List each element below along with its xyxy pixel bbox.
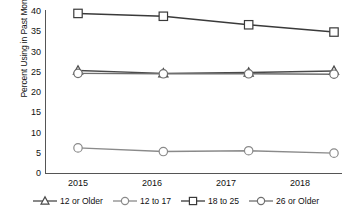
y-axis-tick-labels: 40 35 30 25 20 15 10 5 0 xyxy=(21,0,41,216)
data-point-marker xyxy=(330,28,338,36)
y-tick-label: 5 xyxy=(21,148,41,158)
legend-item[interactable]: 18 to 25 xyxy=(181,195,239,207)
y-tick-label: 30 xyxy=(21,47,41,57)
data-point-marker xyxy=(74,9,82,17)
data-point-marker xyxy=(74,69,82,77)
y-tick-label: 40 xyxy=(21,6,41,16)
legend-circle-icon xyxy=(249,195,273,207)
legend-triangle-icon xyxy=(33,195,57,207)
x-axis-line xyxy=(45,173,342,174)
series-layer xyxy=(46,11,342,173)
series-line xyxy=(78,148,334,153)
y-tick-label: 15 xyxy=(21,107,41,117)
data-point-marker xyxy=(330,149,338,157)
data-point-marker xyxy=(159,147,167,155)
x-tick-label: 2018 xyxy=(290,178,310,188)
legend-item[interactable]: 12 or Older xyxy=(33,195,103,207)
data-point-marker xyxy=(74,144,82,152)
y-tick-label: 20 xyxy=(21,87,41,97)
data-point-marker xyxy=(159,70,167,78)
data-point-marker xyxy=(159,12,167,20)
legend-item-label: 26 or Older xyxy=(276,197,319,206)
plot-area xyxy=(46,11,342,173)
legend-item-label: 12 to 17 xyxy=(140,197,171,206)
legend-item-label: 18 to 25 xyxy=(208,197,239,206)
chart-legend: 12 or Older12 to 1718 to 2526 or Older xyxy=(0,195,352,207)
legend-item[interactable]: 12 to 17 xyxy=(113,195,171,207)
x-tick-label: 2017 xyxy=(216,178,236,188)
legend-circle-icon xyxy=(113,195,137,207)
y-tick-label: 0 xyxy=(21,168,41,178)
legend-square-icon xyxy=(181,195,205,207)
data-point-marker xyxy=(244,21,252,29)
x-tick-label: 2015 xyxy=(68,178,88,188)
y-tick-label: 10 xyxy=(21,128,41,138)
series-line xyxy=(78,73,334,74)
series-line xyxy=(78,13,334,32)
line-chart-figure: Percent Using in Past Month 40 35 30 25 … xyxy=(0,0,352,216)
data-point-marker xyxy=(244,70,252,78)
y-tick-label: 35 xyxy=(21,26,41,36)
legend-item-label: 12 or Older xyxy=(60,197,103,206)
data-point-marker xyxy=(330,70,338,78)
data-point-marker xyxy=(244,147,252,155)
legend-item[interactable]: 26 or Older xyxy=(249,195,319,207)
y-tick-label: 25 xyxy=(21,67,41,77)
x-tick-label: 2016 xyxy=(142,178,162,188)
